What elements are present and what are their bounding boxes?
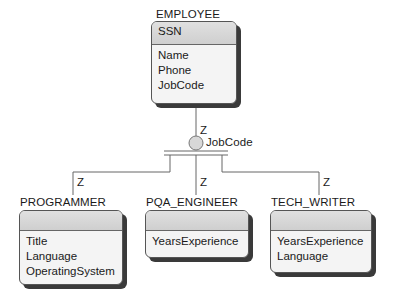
attribute-list: YearsExperience (146, 231, 248, 253)
entity-pqa-engineer[interactable]: YearsExperience (145, 210, 249, 258)
discriminator-label: JobCode (206, 136, 253, 148)
entity-employee[interactable]: SSN Name Phone JobCode (151, 21, 237, 104)
attribute-list: YearsExperience Language (271, 231, 371, 268)
attribute-list: Title Language OperatingSystem (20, 231, 122, 283)
identifier-ssn: SSN (152, 22, 236, 45)
attribute-yearsexperience: YearsExperience (277, 234, 365, 249)
subtype-marker-tech-writer: Z (323, 176, 330, 188)
entity-name-pqa-engineer: PQA_ENGINEER (146, 196, 238, 208)
attribute-language: Language (277, 249, 365, 264)
attribute-yearsexperience: YearsExperience (152, 234, 242, 249)
identifier-empty (20, 211, 122, 231)
attribute-jobcode: JobCode (158, 78, 230, 93)
entity-name-employee: EMPLOYEE (156, 8, 220, 20)
entity-name-tech-writer: TECH_WRITER (271, 196, 355, 208)
subtype-marker-programmer: Z (77, 176, 84, 188)
entity-tech-writer[interactable]: YearsExperience Language (270, 210, 372, 273)
identifier-empty (271, 211, 371, 231)
attribute-name: Name (158, 48, 230, 63)
discriminator-circle-icon (189, 136, 203, 150)
entity-programmer[interactable]: Title Language OperatingSystem (19, 210, 123, 285)
subtype-marker-pqa-engineer: Z (200, 176, 207, 188)
identifier-empty (146, 211, 248, 231)
entity-name-programmer: PROGRAMMER (20, 196, 106, 208)
attribute-list: Name Phone JobCode (152, 45, 236, 97)
discriminator-marker: Z (200, 124, 207, 136)
attribute-title: Title (26, 234, 116, 249)
attribute-operatingsystem: OperatingSystem (26, 264, 116, 279)
attribute-phone: Phone (158, 63, 230, 78)
attribute-language: Language (26, 249, 116, 264)
